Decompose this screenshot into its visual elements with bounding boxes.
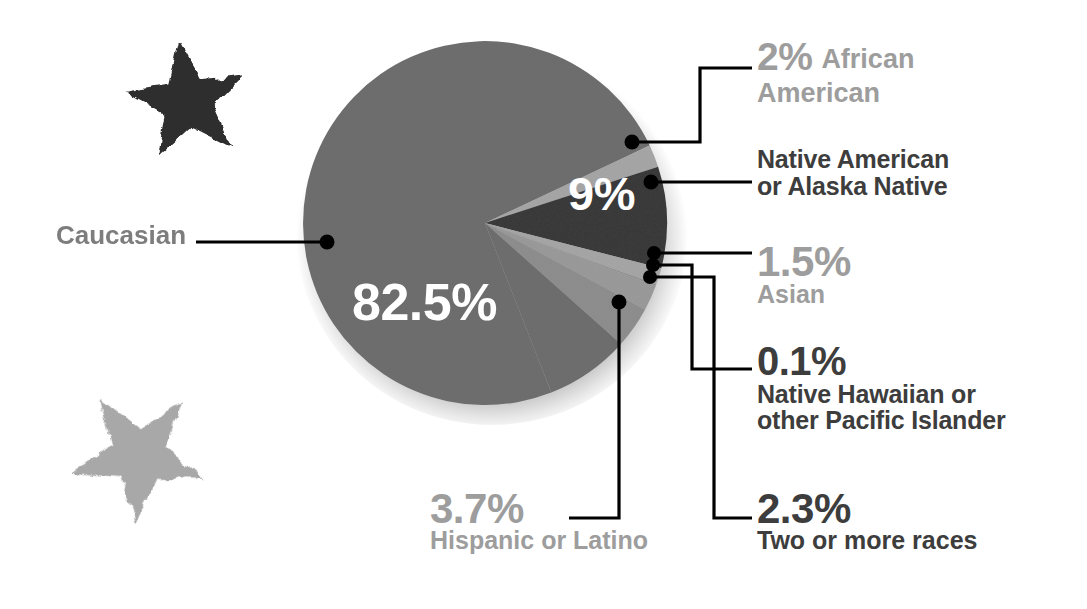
star-icon-dark [120, 32, 255, 161]
dot-asian [647, 246, 661, 260]
callout-african-american-name-line1: African [821, 44, 914, 74]
slice-value-caucasian: 82.5% [352, 272, 497, 332]
callout-native-american-name-line1: Native American [757, 146, 949, 173]
callout-african-american-name-line2: American [757, 79, 914, 108]
callout-native-hawaiian-name-line1: Native Hawaiian or [757, 381, 1005, 408]
dot-native-hawaiian [646, 258, 660, 272]
callout-asian: 1.5% Asian [757, 240, 851, 307]
dot-native-american [644, 175, 659, 190]
infographic-canvas: 82.5% 9% Caucasian 2%African American Na… [0, 0, 1087, 609]
dot-two-or-more [643, 270, 657, 284]
callout-native-hawaiian-name-line2: other Pacific Islander [757, 407, 1005, 434]
callout-caucasian: Caucasian [56, 222, 186, 250]
pie-slices [303, 41, 667, 405]
callout-native-hawaiian: 0.1% Native Hawaiian or other Pacific Is… [757, 340, 1005, 433]
callout-african-american: 2%African American [757, 36, 914, 108]
callout-two-or-more: 2.3% Two or more races [757, 487, 977, 553]
callout-hispanic: 3.7% Hispanic or Latino [430, 487, 648, 553]
dot-african-american [625, 135, 640, 150]
callout-african-american-percent: 2% [757, 36, 812, 77]
callout-caucasian-name: Caucasian [56, 222, 186, 250]
star-icon-gray [69, 397, 207, 528]
callout-hispanic-percent: 3.7% [430, 487, 648, 532]
callout-asian-percent: 1.5% [757, 240, 851, 285]
callout-two-or-more-name: Two or more races [757, 527, 977, 554]
star-decorations [69, 32, 254, 528]
dot-caucasian [320, 235, 335, 250]
callout-two-or-more-percent: 2.3% [757, 487, 977, 532]
dot-hispanic [612, 295, 627, 310]
callout-native-american: Native American or Alaska Native [757, 146, 949, 199]
callout-native-american-name-line2: or Alaska Native [757, 173, 949, 200]
callout-native-hawaiian-percent: 0.1% [757, 340, 1005, 382]
callout-hispanic-name: Hispanic or Latino [430, 527, 648, 554]
slice-value-native-american: 9% [568, 166, 635, 221]
